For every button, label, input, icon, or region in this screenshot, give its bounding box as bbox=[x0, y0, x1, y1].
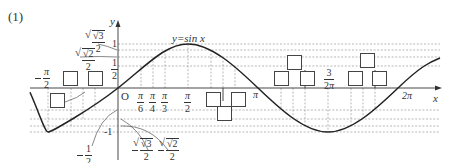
y-axis-label: y bbox=[110, 16, 115, 27]
answer-box-3[interactable] bbox=[50, 93, 65, 108]
x-tick-pi-over-4: π4 bbox=[149, 91, 156, 114]
y-axis-arrow-icon bbox=[116, 20, 121, 27]
function-label: y=sin x bbox=[172, 33, 205, 44]
answer-box-5[interactable] bbox=[231, 92, 246, 107]
problem-number: (1) bbox=[8, 10, 23, 23]
x-tick-pi-over-6: π6 bbox=[137, 91, 144, 114]
sine-graph-figure: (1) y=sin x y x O 1 12 -1 √32 √22 12 √32… bbox=[0, 0, 450, 163]
answer-box-6[interactable] bbox=[217, 106, 232, 121]
answer-box-9[interactable] bbox=[300, 71, 315, 86]
answer-box-4[interactable] bbox=[206, 92, 221, 107]
callout-minus-one-half: 12 bbox=[85, 144, 92, 163]
x-tick-2pi: 2π bbox=[402, 91, 412, 101]
x-tick-pi-over-3: π3 bbox=[161, 91, 168, 114]
answer-box-2[interactable] bbox=[88, 71, 103, 86]
y-tick-one-half: 12 bbox=[111, 58, 118, 81]
callout-sqrt2-over-2: √22 bbox=[82, 48, 95, 72]
origin-label: O bbox=[121, 91, 129, 102]
answer-box-1[interactable] bbox=[63, 71, 78, 86]
x-tick-3pi-over-2: 32π bbox=[324, 68, 334, 91]
x-axis-label: x bbox=[433, 93, 438, 104]
y-tick-minus-1: -1 bbox=[104, 127, 112, 137]
answer-box-12[interactable] bbox=[360, 53, 375, 68]
answer-box-10[interactable] bbox=[348, 71, 363, 86]
answer-box-7[interactable] bbox=[287, 55, 302, 70]
answer-box-8[interactable] bbox=[274, 71, 289, 86]
x-tick-pi: π bbox=[253, 90, 258, 100]
callout-minus-sqrt2-over-2: √22 bbox=[166, 138, 179, 162]
x-tick-minus-pi-over-2: π2 bbox=[43, 67, 50, 90]
answer-box-11[interactable] bbox=[372, 71, 387, 86]
x-axis-arrow-icon bbox=[435, 86, 442, 91]
callout-minus-sqrt3-over-2: √32 bbox=[140, 138, 153, 162]
y-tick-1: 1 bbox=[112, 39, 117, 49]
x-tick-pi-over-2: π2 bbox=[184, 91, 191, 114]
